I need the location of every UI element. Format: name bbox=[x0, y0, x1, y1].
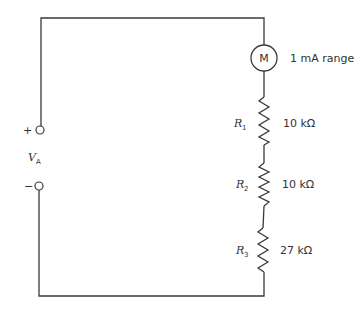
r3-subscript: 3 bbox=[244, 251, 248, 259]
meter-range-label: 1 mA range bbox=[290, 52, 354, 65]
r3-value: 27 kΩ bbox=[280, 244, 312, 257]
r3-symbol: R bbox=[235, 244, 244, 257]
plus-label: + bbox=[23, 124, 32, 137]
resistor-r1 bbox=[259, 97, 269, 145]
r1-symbol: R bbox=[233, 117, 242, 130]
resistor-r3 bbox=[258, 228, 268, 272]
r2-subscript: 2 bbox=[244, 185, 248, 193]
top-left-wire bbox=[41, 18, 264, 126]
meter-symbol: M bbox=[259, 52, 269, 65]
minus-label: − bbox=[24, 180, 33, 193]
plus-terminal bbox=[36, 126, 44, 134]
bottom-return-wire bbox=[39, 190, 264, 296]
r2-value: 10 kΩ bbox=[282, 178, 314, 191]
resistor-r2 bbox=[259, 163, 269, 206]
r1-subscript: 1 bbox=[242, 124, 246, 132]
circuit-diagram: M 1 mA range + − V A R 1 10 kΩ R 2 10 kΩ… bbox=[0, 0, 364, 314]
r2-symbol: R bbox=[235, 178, 244, 191]
minus-terminal bbox=[35, 182, 43, 190]
r2-to-r3-wire bbox=[263, 206, 264, 228]
r1-value: 10 kΩ bbox=[283, 117, 315, 130]
source-subscript: A bbox=[36, 158, 41, 166]
